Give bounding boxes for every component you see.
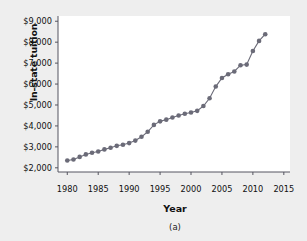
data-point (90, 150, 95, 155)
data-point (189, 110, 194, 115)
data-point (133, 138, 138, 143)
data-point (195, 109, 200, 114)
data-point (183, 111, 188, 116)
figure-subcaption: (a) (60, 222, 290, 232)
x-axis-title: Year (60, 203, 290, 214)
data-point (139, 135, 144, 140)
data-point (65, 158, 70, 163)
data-point (84, 152, 89, 157)
data-point (244, 62, 249, 67)
data-point (257, 39, 262, 44)
data-point (201, 104, 206, 109)
data-point (238, 63, 243, 68)
data-point (213, 84, 218, 89)
data-point (207, 96, 212, 101)
x-tick-label: 2015 (264, 184, 304, 194)
data-point (102, 147, 107, 152)
data-point (71, 157, 76, 162)
data-point (145, 130, 150, 135)
tuition-chart-figure: $2,000$3,000$4,000$5,000$6,000$7,000$8,0… (0, 0, 307, 241)
data-point (96, 149, 101, 154)
data-point (232, 69, 237, 74)
data-point (176, 113, 181, 118)
data-point (121, 142, 126, 147)
data-point (152, 123, 157, 128)
data-point (77, 155, 82, 160)
data-point (263, 32, 268, 37)
y-tick-label: $2,000 (10, 163, 52, 173)
data-point (127, 141, 132, 146)
plot-panel (58, 16, 290, 172)
data-point (108, 145, 113, 150)
data-point (114, 144, 119, 149)
y-axis-title: In-state tuition (28, 0, 39, 143)
data-point (251, 49, 256, 54)
data-point (164, 117, 169, 122)
data-point (226, 72, 231, 77)
y-tick-label: $3,000 (10, 142, 52, 152)
data-point (158, 119, 163, 124)
data-point (170, 115, 175, 120)
data-point (220, 76, 225, 81)
